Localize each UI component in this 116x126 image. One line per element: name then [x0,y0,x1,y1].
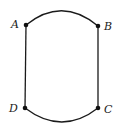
vertex-label-a: A [10,18,19,31]
edge-d-a [25,25,26,108]
edge-a-b [26,11,98,26]
vertex-label-c: C [104,103,113,116]
vertex-d [23,106,28,111]
vertex-b [96,24,101,29]
vertex-a [24,23,29,28]
vertex-label-d: D [8,102,18,115]
graph-diagram: A B C D [0,0,116,126]
vertex-label-b: B [103,20,112,33]
edge-c-d [25,108,98,122]
vertex-c [96,106,101,111]
